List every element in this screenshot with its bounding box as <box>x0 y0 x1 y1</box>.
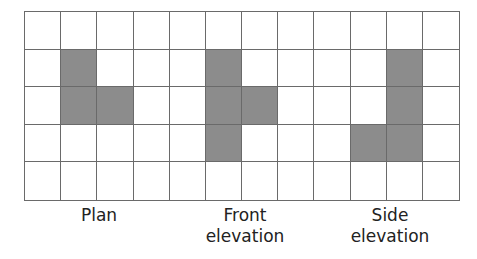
grid-cell <box>170 162 206 200</box>
grid-cell <box>423 162 459 200</box>
label-side-line1: Side <box>330 205 450 226</box>
grid-cell <box>423 125 459 163</box>
grid-cell <box>134 50 170 88</box>
grid-cell <box>170 87 206 125</box>
grid-cell <box>25 162 61 200</box>
grid-cell <box>25 87 61 125</box>
shaded-cell <box>97 87 133 125</box>
grid-cell <box>314 125 350 163</box>
shaded-cell <box>61 87 97 125</box>
grid-cell <box>242 50 278 88</box>
grid-cell <box>278 125 314 163</box>
shaded-cell <box>387 87 423 125</box>
grid-cell <box>61 125 97 163</box>
label-front-line1: Front <box>185 205 305 226</box>
grid-cell <box>423 87 459 125</box>
grid-cell <box>61 162 97 200</box>
grid-cell <box>97 50 133 88</box>
shaded-cell <box>61 50 97 88</box>
label-front-line2: elevation <box>185 226 305 247</box>
grid-cell <box>423 12 459 50</box>
grid-cell <box>351 12 387 50</box>
grid-cell <box>134 125 170 163</box>
grid-cell <box>61 12 97 50</box>
grid-cell <box>242 162 278 200</box>
grid-cell <box>423 50 459 88</box>
grid-cell <box>351 50 387 88</box>
grid-cell <box>387 12 423 50</box>
shaded-cell <box>387 125 423 163</box>
grid-cell <box>387 162 423 200</box>
grid-cell <box>314 50 350 88</box>
grid-cell <box>170 125 206 163</box>
grid-cell <box>314 87 350 125</box>
grid-cell <box>278 12 314 50</box>
label-side-elevation: Side elevation <box>330 205 450 247</box>
grid-cell <box>278 50 314 88</box>
shaded-cell <box>387 50 423 88</box>
grid-cell <box>97 125 133 163</box>
grid-cell <box>242 125 278 163</box>
label-front-elevation: Front elevation <box>185 205 305 247</box>
square-grid <box>24 11 460 201</box>
grid-cell <box>314 162 350 200</box>
shaded-cell <box>242 87 278 125</box>
grid-cell <box>97 12 133 50</box>
grid-cell <box>134 12 170 50</box>
grid-cell <box>170 50 206 88</box>
grid-cell <box>351 162 387 200</box>
label-plan: Plan <box>39 205 159 226</box>
grid-cell <box>242 12 278 50</box>
shaded-cell <box>351 125 387 163</box>
grid-cell <box>206 12 242 50</box>
grid-cell <box>351 87 387 125</box>
grid-cell <box>134 87 170 125</box>
label-side-line2: elevation <box>330 226 450 247</box>
grid-cell <box>278 162 314 200</box>
shaded-cell <box>206 50 242 88</box>
grid-cell <box>25 50 61 88</box>
shaded-cell <box>206 87 242 125</box>
grid-cell <box>97 162 133 200</box>
shaded-cell <box>206 125 242 163</box>
grid-cell <box>206 162 242 200</box>
label-plan-line1: Plan <box>39 205 159 226</box>
grid-cell <box>314 12 350 50</box>
grid-cell <box>25 125 61 163</box>
grid-cell <box>170 12 206 50</box>
grid-cell <box>25 12 61 50</box>
grid-cell <box>278 87 314 125</box>
grid-cell <box>134 162 170 200</box>
